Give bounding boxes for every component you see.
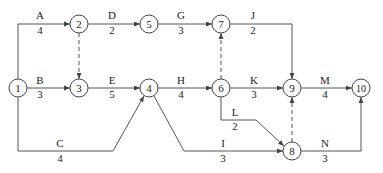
node-7-label: 7 <box>218 18 224 30</box>
node-4: 4 <box>140 79 158 97</box>
activity-D-label: D <box>108 9 116 21</box>
node-3: 3 <box>70 79 88 97</box>
activity-G-label: G <box>177 9 185 21</box>
activity-L-label: L <box>232 106 239 118</box>
activity-N-label: N <box>321 137 329 149</box>
node-5: 5 <box>140 15 158 33</box>
activity-K-duration: 3 <box>251 88 257 100</box>
activity-B-duration: 3 <box>37 88 43 100</box>
activity-E-duration: 5 <box>109 88 115 100</box>
node-8-label: 8 <box>289 145 295 157</box>
activity-A-label: A <box>36 9 44 21</box>
activity-J-arrow <box>230 24 292 79</box>
activity-J-duration: 2 <box>250 24 256 36</box>
activity-C-duration: 4 <box>57 152 63 164</box>
activity-J-label: J <box>251 9 256 21</box>
node-3-label: 3 <box>76 82 82 94</box>
node-4-label: 4 <box>146 82 152 94</box>
activity-G-duration: 3 <box>178 24 184 36</box>
activity-K-label: K <box>250 74 258 86</box>
activity-B-label: B <box>36 74 43 86</box>
node-9-label: 9 <box>289 82 295 94</box>
activity-I-duration: 3 <box>220 152 226 164</box>
activity-C-label: C <box>56 137 63 149</box>
activity-L-arrow <box>221 97 284 146</box>
node-6: 6 <box>212 79 230 97</box>
activity-A-duration: 4 <box>37 24 43 36</box>
activity-E-label: E <box>109 74 116 86</box>
activity-I-arrow <box>154 96 283 151</box>
node-2: 2 <box>70 15 88 33</box>
node-9: 9 <box>283 79 301 97</box>
node-1: 1 <box>9 79 27 97</box>
node-8: 8 <box>283 142 301 160</box>
activity-I-label: I <box>221 137 225 149</box>
network-diagram: A 4 B 3 C 4 D 2 E 5 G 3 H 4 I 3 J 2 K 3 … <box>0 0 383 173</box>
activity-H-label: H <box>177 74 185 86</box>
activity-A-arrow <box>18 24 70 79</box>
activity-C-arrow <box>18 96 144 151</box>
node-10: 10 <box>352 79 370 97</box>
node-1-label: 1 <box>15 82 21 94</box>
activity-M-label: M <box>320 74 330 86</box>
activity-H-duration: 4 <box>178 88 184 100</box>
activity-M-duration: 4 <box>322 88 328 100</box>
node-10-label: 10 <box>356 83 366 94</box>
node-7: 7 <box>212 15 230 33</box>
node-2-label: 2 <box>76 18 82 30</box>
activity-D-duration: 2 <box>109 24 115 36</box>
node-5-label: 5 <box>146 18 152 30</box>
node-6-label: 6 <box>218 82 224 94</box>
activity-N-duration: 3 <box>322 152 328 164</box>
activity-L-duration: 2 <box>232 120 238 132</box>
activity-N-arrow <box>301 97 361 151</box>
